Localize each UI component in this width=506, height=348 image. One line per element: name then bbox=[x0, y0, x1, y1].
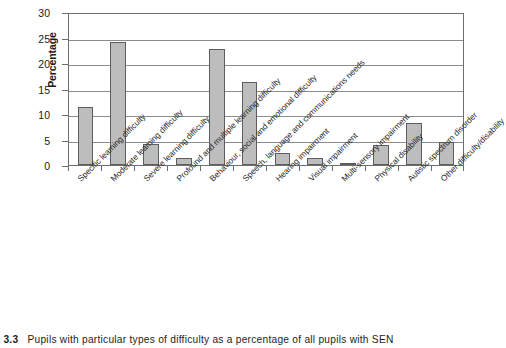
bar bbox=[143, 144, 159, 165]
bar bbox=[406, 123, 422, 165]
figure-caption: ure 3.3 Pupils with particular types of … bbox=[0, 334, 471, 345]
bar bbox=[307, 158, 323, 165]
x-tick-mark bbox=[233, 166, 234, 171]
x-tick-mark bbox=[134, 166, 135, 171]
x-tick-mark bbox=[431, 166, 432, 171]
bar bbox=[275, 153, 291, 165]
x-tick-mark bbox=[68, 166, 69, 171]
bar-slot bbox=[69, 14, 102, 165]
caption-number: ure 3.3 bbox=[0, 334, 18, 345]
bar bbox=[110, 42, 126, 165]
x-tick-mark bbox=[167, 166, 168, 171]
x-tick-mark bbox=[299, 166, 300, 171]
bar-slot bbox=[102, 14, 135, 165]
y-tick-label: 15 bbox=[28, 85, 50, 95]
bar-slot bbox=[167, 14, 200, 165]
y-tick-label: 30 bbox=[28, 8, 50, 18]
caption-text: Pupils with particular types of difficul… bbox=[18, 334, 393, 345]
bar bbox=[242, 82, 258, 165]
x-tick-mark bbox=[463, 166, 464, 171]
y-axis-tick-labels: 051015202530 bbox=[24, 0, 50, 348]
x-tick-mark bbox=[200, 166, 201, 171]
bar-slot bbox=[332, 14, 365, 165]
bar bbox=[340, 163, 356, 165]
y-tick-label: 25 bbox=[28, 34, 50, 44]
x-tick-mark bbox=[332, 166, 333, 171]
x-tick-mark bbox=[266, 166, 267, 171]
y-tick-label: 20 bbox=[28, 59, 50, 69]
y-tick-label: 5 bbox=[28, 136, 50, 146]
x-tick-mark bbox=[365, 166, 366, 171]
bar-slot bbox=[299, 14, 332, 165]
bar-series bbox=[69, 14, 463, 165]
y-tick-label: 0 bbox=[28, 161, 50, 171]
x-tick-mark bbox=[101, 166, 102, 171]
plot-area bbox=[68, 13, 464, 166]
bar-slot bbox=[200, 14, 233, 165]
x-axis-tick-marks bbox=[68, 166, 464, 171]
bar-slot bbox=[135, 14, 168, 165]
bar bbox=[373, 145, 389, 165]
bar-slot bbox=[364, 14, 397, 165]
bar-slot bbox=[397, 14, 430, 165]
bar-slot bbox=[233, 14, 266, 165]
bar-slot bbox=[266, 14, 299, 165]
y-tick-label: 10 bbox=[28, 110, 50, 120]
bar bbox=[176, 158, 192, 165]
bar bbox=[78, 107, 94, 165]
bar-slot bbox=[430, 14, 463, 165]
x-tick-mark bbox=[398, 166, 399, 171]
bar bbox=[209, 49, 225, 165]
bar bbox=[439, 142, 455, 165]
